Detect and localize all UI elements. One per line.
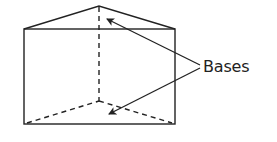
arrow-to-bottom-base (109, 68, 200, 114)
hidden-bottom-edge-right (99, 101, 172, 123)
bases-label: Bases (203, 57, 249, 76)
arrow-to-top-base (107, 19, 200, 65)
hidden-bottom-edge-left (27, 101, 99, 123)
prism-diagram: Bases (0, 0, 277, 142)
